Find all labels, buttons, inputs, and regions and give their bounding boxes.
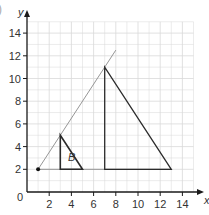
x-tick-label: 4 (68, 198, 74, 210)
y-axis-arrow-icon (24, 10, 30, 17)
grid-lines (27, 22, 194, 192)
x-tick-label: 6 (91, 198, 97, 210)
shapes (36, 50, 171, 171)
x-tick-label: 12 (154, 198, 166, 210)
labels: 246810121424681012140xyB (9, 6, 209, 210)
x-tick-label: 10 (132, 198, 144, 210)
y-tick-label: 10 (9, 73, 21, 85)
x-axis-arrow-icon (197, 189, 204, 195)
x-tick-label: 2 (46, 198, 52, 210)
x-axis-label: x (203, 194, 209, 206)
axes (23, 10, 204, 196)
x-tick-label: 8 (113, 198, 119, 210)
shape-b-label: B (68, 151, 75, 163)
centre-of-enlargement-dot (36, 167, 40, 171)
coordinate-grid: 246810121424681012140xyB (0, 0, 209, 215)
y-tick-label: 12 (9, 50, 21, 62)
y-tick-label: 8 (15, 95, 21, 107)
y-tick-label: 14 (9, 27, 21, 39)
origin-label: 0 (17, 191, 23, 203)
y-tick-label: 4 (15, 141, 21, 153)
partial-question-label: ) (0, 2, 2, 16)
y-axis-label: y (17, 6, 25, 18)
x-tick-label: 14 (176, 198, 188, 210)
y-tick-label: 2 (15, 163, 21, 175)
enlargement-diagram: 246810121424681012140xyB ) (0, 0, 209, 215)
y-tick-label: 6 (15, 118, 21, 130)
